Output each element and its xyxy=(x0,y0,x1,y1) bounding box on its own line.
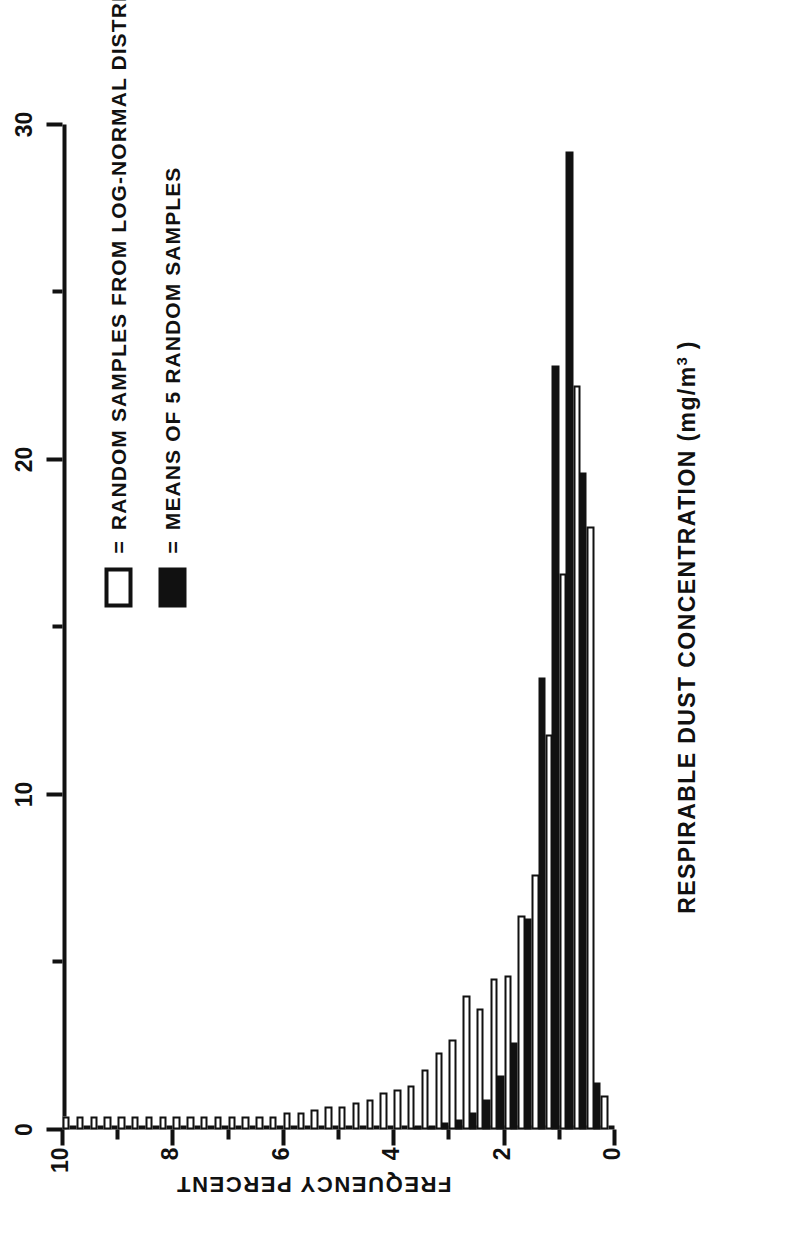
bar-means-11 xyxy=(455,1119,462,1129)
x-axis-title-superscript: 3 xyxy=(672,357,689,365)
bar-means-1 xyxy=(593,1082,600,1129)
bar-random-32 xyxy=(159,1116,166,1129)
bar-random-19 xyxy=(338,1106,345,1129)
bar-random-26 xyxy=(241,1116,248,1129)
legend-equals-sign: = xyxy=(160,540,184,553)
x-axis-tick xyxy=(446,1129,450,1139)
bar-means-13 xyxy=(427,1126,434,1129)
x-axis-title-close: ) xyxy=(674,340,700,357)
bar-random-27 xyxy=(228,1116,235,1129)
x-axis-tick-label: 0 xyxy=(598,1147,625,1191)
bar-random-13 xyxy=(421,1069,428,1129)
y-axis-tick-label: 10 xyxy=(10,764,37,824)
x-axis-tick xyxy=(170,1129,174,1145)
bar-means-9 xyxy=(482,1099,489,1129)
y-axis-tick xyxy=(52,960,62,964)
bar-means-14 xyxy=(413,1126,420,1129)
bar-random-37 xyxy=(90,1116,97,1129)
bar-random-38 xyxy=(76,1116,83,1129)
bar-random-31 xyxy=(172,1116,179,1129)
bar-random-23 xyxy=(283,1112,290,1129)
bar-random-21 xyxy=(310,1109,317,1129)
figure-page: 02468100102030 RESPIRABLE DUST CONCENTRA… xyxy=(0,0,786,1247)
x-axis-tick xyxy=(336,1129,340,1139)
bar-random-15 xyxy=(393,1089,400,1129)
y-axis-tick xyxy=(46,792,62,796)
legend-equals-sign: = xyxy=(106,540,130,553)
bar-means-10 xyxy=(469,1112,476,1129)
bar-means-12 xyxy=(441,1122,448,1129)
bar-random-0 xyxy=(600,1096,607,1130)
bar-means-3 xyxy=(565,151,572,1129)
bar-random-36 xyxy=(103,1116,110,1129)
bar-random-1 xyxy=(586,526,593,1129)
bar-random-18 xyxy=(352,1102,359,1129)
bar-random-22 xyxy=(297,1112,304,1129)
histogram-figure: 02468100102030 RESPIRABLE DUST CONCENTRA… xyxy=(0,0,786,1247)
y-axis-title: FREQUENCY PERCENT xyxy=(163,1170,463,1196)
bar-random-39 xyxy=(62,1116,69,1129)
bar-means-8 xyxy=(496,1075,503,1129)
x-axis-tick-label: 10 xyxy=(46,1147,73,1191)
legend-label-random-samples: RANDOM SAMPLES FROM LOG-NORMAL DISTRIBUT… xyxy=(106,0,130,530)
y-axis-tick xyxy=(52,290,62,294)
x-axis-title: RESPIRABLE DUST CONCENTRATION (mg/m3 ) xyxy=(672,124,701,1129)
bar-random-24 xyxy=(269,1116,276,1129)
x-axis-tick xyxy=(502,1129,506,1145)
y-axis-tick-label: 20 xyxy=(10,429,37,489)
open-square-swatch-icon xyxy=(104,567,132,607)
x-axis-tick-label: 2 xyxy=(488,1147,515,1191)
bar-random-34 xyxy=(131,1116,138,1129)
bar-means-6 xyxy=(524,918,531,1129)
bar-means-5 xyxy=(538,677,545,1129)
bar-random-11 xyxy=(448,1039,455,1129)
x-axis-tick xyxy=(226,1129,230,1139)
y-axis-tick xyxy=(46,1127,62,1131)
chart-legend: = RANDOM SAMPLES FROM LOG-NORMAL DISTRIB… xyxy=(104,0,212,607)
bar-random-35 xyxy=(117,1116,124,1129)
legend-item-means: = MEANS OF 5 RANDOM SAMPLES xyxy=(158,0,186,607)
x-axis-tick xyxy=(391,1129,395,1145)
bar-means-4 xyxy=(551,365,558,1129)
y-axis-tick-label: 0 xyxy=(10,1099,37,1159)
y-axis-tick-label: 30 xyxy=(10,94,37,154)
bar-random-16 xyxy=(379,1092,386,1129)
legend-item-random-samples: = RANDOM SAMPLES FROM LOG-NORMAL DISTRIB… xyxy=(104,0,132,607)
x-axis-title-text: RESPIRABLE DUST CONCENTRATION (mg/m xyxy=(674,365,700,913)
x-axis-tick xyxy=(557,1129,561,1139)
bar-means-2 xyxy=(579,472,586,1129)
bar-random-33 xyxy=(145,1116,152,1129)
x-axis-tick xyxy=(612,1129,616,1145)
bar-random-29 xyxy=(200,1116,207,1129)
y-axis-tick xyxy=(52,625,62,629)
y-axis-tick xyxy=(46,122,62,126)
y-axis-tick xyxy=(46,457,62,461)
bar-random-20 xyxy=(324,1106,331,1129)
bar-random-17 xyxy=(366,1099,373,1129)
bar-random-14 xyxy=(407,1085,414,1129)
filled-square-swatch-icon xyxy=(158,567,186,607)
x-axis-tick xyxy=(281,1129,285,1145)
bar-random-25 xyxy=(255,1116,262,1129)
x-axis-tick xyxy=(115,1129,119,1139)
bar-means-7 xyxy=(510,1042,517,1129)
bar-random-12 xyxy=(435,1052,442,1129)
bar-random-30 xyxy=(186,1116,193,1129)
bar-random-10 xyxy=(462,995,469,1129)
legend-label-means: MEANS OF 5 RANDOM SAMPLES xyxy=(160,166,184,530)
bar-random-28 xyxy=(214,1116,221,1129)
